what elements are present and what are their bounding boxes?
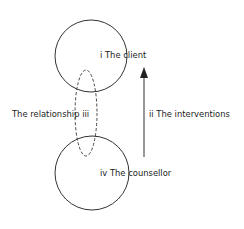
arrow-head-icon [140,67,148,78]
relationship-label: The relationship iii [11,109,89,119]
counsellor-label: iv The counsellor [100,168,172,178]
client-label: i The client [100,50,147,60]
interventions-label: ii The interventions [149,109,230,119]
counselling-diagram: i The client The relationship iii ii The… [0,0,244,229]
